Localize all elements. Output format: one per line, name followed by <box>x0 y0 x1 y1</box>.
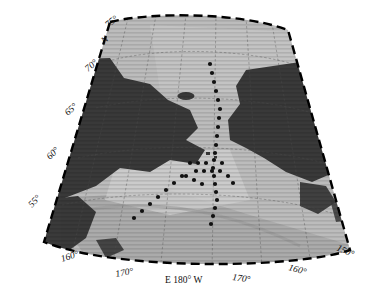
bering-sea-map: 75° N 70° 65° 60° 55° 160° 170° E 180° W… <box>0 0 384 299</box>
lon-tick-160W: 160° <box>287 262 307 277</box>
caption-sliver <box>0 289 384 299</box>
lat-tick-65: 65° <box>63 101 80 117</box>
lon-center-label: E 180° W <box>165 275 202 285</box>
lon-tick-160E: 160° <box>60 249 80 264</box>
lon-tick-170E: 170° <box>115 266 135 279</box>
lon-tick-150W: 150° <box>335 243 356 260</box>
lat-tick-60: 60° <box>44 145 61 162</box>
lon-tick-170W: 170° <box>232 272 251 284</box>
figure-canvas: 75° N 70° 65° 60° 55° 160° 170° E 180° W… <box>0 0 384 299</box>
lat-tick-55: 55° <box>26 193 43 210</box>
